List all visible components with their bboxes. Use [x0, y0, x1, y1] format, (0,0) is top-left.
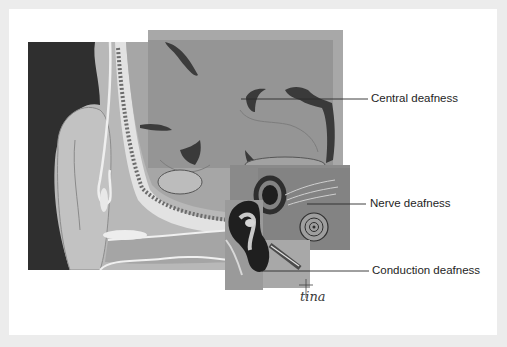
label-central-deafness: Central deafness — [371, 93, 458, 105]
artist-signature: tina — [300, 289, 326, 304]
ear-anatomy-illustration — [0, 0, 507, 347]
label-conduction-deafness: Conduction deafness — [372, 265, 480, 277]
label-nerve-deafness: Nerve deafness — [370, 198, 451, 210]
